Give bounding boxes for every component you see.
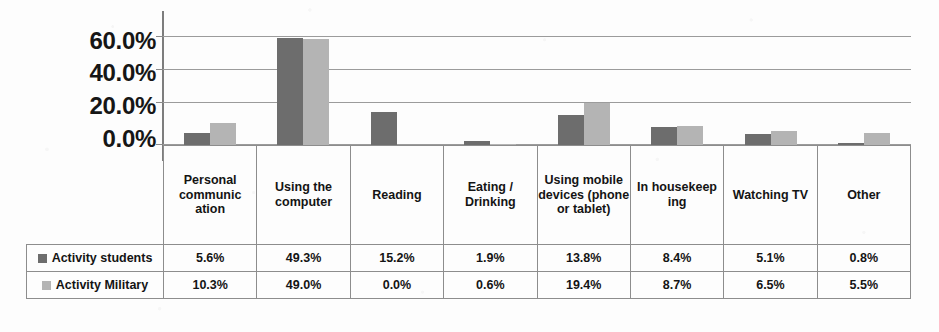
bar-military[interactable] xyxy=(864,133,890,145)
bar-students[interactable] xyxy=(745,134,771,145)
bar-students[interactable] xyxy=(558,115,584,145)
value-students-eating-drinking: 1.9% xyxy=(444,245,537,272)
value-students-reading: 15.2% xyxy=(350,245,443,272)
y-tick-label-40: 40.0% xyxy=(89,61,156,85)
category-header-reading: Reading xyxy=(350,146,443,245)
axis-tick-60 xyxy=(156,36,163,37)
value-military-using-the-computer: 49.0% xyxy=(257,272,350,299)
bar-group xyxy=(257,14,351,145)
y-tick-label-60: 60.0% xyxy=(89,29,156,53)
category-header-eating-drinking: Eating / Drinking xyxy=(444,146,537,245)
value-students-in-housekeeping: 8.4% xyxy=(630,245,723,272)
value-students-using-mobile-devices: 13.8% xyxy=(537,245,630,272)
legend-swatch-icon-military xyxy=(42,281,51,290)
table-corner-cell xyxy=(27,146,164,245)
axis-tick-20 xyxy=(156,102,163,103)
category-header-other: Other xyxy=(817,146,910,245)
value-military-watching-tv: 6.5% xyxy=(724,272,817,299)
category-header-watching-tv: Watching TV xyxy=(724,146,817,245)
axis-tick-40 xyxy=(156,69,163,70)
y-axis: 60.0% 40.0% 20.0% 0.0% xyxy=(38,14,156,154)
value-military-using-mobile-devices: 19.4% xyxy=(537,272,630,299)
bar-military[interactable] xyxy=(771,131,797,145)
legend-item-activity-students[interactable]: Activity students xyxy=(27,245,164,272)
bar-group xyxy=(724,14,818,145)
category-header-using-mobile-devices: Using mobile devices (phone or tablet) xyxy=(537,146,630,245)
value-students-using-the-computer: 49.3% xyxy=(257,245,350,272)
legend-item-activity-military[interactable]: Activity Military xyxy=(27,272,164,299)
legend-swatch-icon-students xyxy=(38,254,47,263)
bar-group xyxy=(818,14,912,145)
value-military-in-housekeeping: 8.7% xyxy=(630,272,723,299)
bar-group xyxy=(350,14,444,145)
value-students-watching-tv: 5.1% xyxy=(724,245,817,272)
bar-military[interactable] xyxy=(677,126,703,145)
table-row-activity-students: Activity students 5.6% 49.3% 15.2% 1.9% … xyxy=(27,245,911,272)
value-students-personal-communication: 5.6% xyxy=(164,245,257,272)
value-military-personal-communication: 10.3% xyxy=(164,272,257,299)
bar-group xyxy=(631,14,725,145)
activity-comparison-chart: 60.0% 40.0% 20.0% 0.0% xyxy=(0,0,939,332)
bar-group xyxy=(444,14,538,145)
value-military-other: 5.5% xyxy=(817,272,910,299)
value-military-reading: 0.0% xyxy=(350,272,443,299)
bar-students[interactable] xyxy=(651,127,677,145)
bar-students[interactable] xyxy=(277,38,303,145)
bar-students[interactable] xyxy=(184,133,210,145)
value-military-eating-drinking: 0.6% xyxy=(444,272,537,299)
y-tick-label-20: 20.0% xyxy=(89,94,156,118)
category-header-using-the-computer: Using the computer xyxy=(257,146,350,245)
plot-area xyxy=(163,14,911,145)
bar-students[interactable] xyxy=(371,112,397,145)
bar-group xyxy=(537,14,631,145)
legend-label-military: Activity Military xyxy=(56,278,148,292)
value-students-other: 0.8% xyxy=(817,245,910,272)
category-header-in-housekeeping: In housekeep ing xyxy=(630,146,723,245)
bar-military[interactable] xyxy=(210,123,236,145)
category-header-personal-communication: Personal communic ation xyxy=(164,146,257,245)
legend-label-students: Activity students xyxy=(52,251,153,265)
bar-military[interactable] xyxy=(303,39,329,145)
table-row-categories: Personal communic ation Using the comput… xyxy=(27,146,911,245)
bars-layer xyxy=(163,14,911,145)
bar-group xyxy=(163,14,257,145)
table-row-activity-military: Activity Military 10.3% 49.0% 0.0% 0.6% … xyxy=(27,272,911,299)
plot-block: 60.0% 40.0% 20.0% 0.0% xyxy=(0,14,939,154)
data-table: Personal communic ation Using the comput… xyxy=(26,145,911,299)
bar-military[interactable] xyxy=(584,103,610,145)
